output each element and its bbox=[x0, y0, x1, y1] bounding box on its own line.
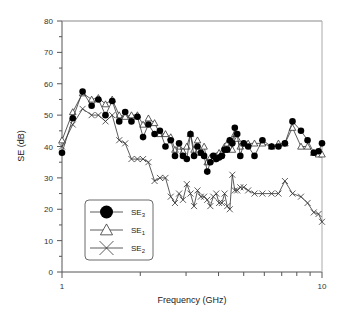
x-axis-label: Frequency (GHz) bbox=[157, 295, 226, 305]
x-cross-icon bbox=[194, 187, 200, 193]
filled-circle-icon bbox=[194, 143, 201, 150]
filled-circle-icon bbox=[88, 102, 95, 109]
filled-circle-icon bbox=[162, 143, 169, 150]
y-tick-label: 50 bbox=[44, 111, 53, 120]
open-triangle-icon bbox=[151, 120, 158, 126]
filled-circle-icon bbox=[102, 112, 109, 119]
filled-circle-icon bbox=[140, 134, 147, 141]
filled-circle-icon bbox=[315, 148, 322, 155]
filled-circle-icon bbox=[298, 128, 305, 135]
filled-circle-icon bbox=[128, 118, 135, 125]
filled-circle-icon bbox=[268, 143, 275, 150]
filled-circle-icon bbox=[319, 140, 326, 147]
filled-circle-icon bbox=[282, 140, 289, 147]
x-cross-icon bbox=[204, 197, 210, 203]
y-tick-label: 70 bbox=[44, 48, 53, 57]
filled-circle-icon bbox=[245, 143, 252, 150]
filled-circle-icon bbox=[275, 143, 282, 150]
x-cross-icon bbox=[282, 178, 288, 184]
filled-circle-icon bbox=[116, 118, 123, 125]
filled-circle-icon bbox=[122, 109, 129, 116]
x-cross-icon bbox=[213, 191, 219, 197]
x-cross-icon bbox=[109, 112, 115, 118]
y-tick-label: 30 bbox=[44, 174, 53, 183]
x-cross-icon bbox=[172, 200, 178, 206]
x-cross-icon bbox=[316, 211, 322, 217]
filled-circle-icon bbox=[187, 131, 194, 138]
x-tick-label: 1 bbox=[60, 282, 65, 291]
filled-circle-icon bbox=[219, 153, 226, 160]
x-cross-icon bbox=[145, 159, 151, 165]
x-cross-icon bbox=[122, 140, 128, 146]
x-cross-icon bbox=[168, 194, 174, 200]
filled-circle-icon bbox=[172, 153, 179, 160]
x-cross-icon bbox=[176, 191, 182, 197]
filled-circle-icon bbox=[59, 149, 66, 156]
x-cross-icon bbox=[116, 137, 122, 143]
open-triangle-icon bbox=[59, 137, 66, 143]
open-triangle-icon bbox=[145, 115, 152, 121]
y-tick-label: 80 bbox=[44, 17, 53, 26]
filled-circle-icon bbox=[224, 146, 231, 153]
filled-circle-icon bbox=[134, 113, 141, 120]
x-tick-label: 10 bbox=[318, 282, 327, 291]
filled-circle-icon bbox=[232, 124, 239, 131]
x-cross-icon bbox=[298, 194, 304, 200]
x-cross-icon bbox=[222, 191, 228, 197]
x-cross-icon bbox=[245, 187, 251, 193]
x-cross-icon bbox=[305, 200, 311, 206]
filled-circle-icon bbox=[207, 159, 214, 166]
filled-circle-icon bbox=[95, 96, 102, 103]
legend: SE3SE1SE2 bbox=[85, 200, 153, 260]
open-triangle-icon bbox=[201, 143, 208, 149]
filled-circle-icon bbox=[237, 153, 244, 160]
filled-circle-icon bbox=[176, 140, 183, 147]
filled-circle-icon bbox=[69, 115, 76, 122]
y-axis-label: SE (dB) bbox=[16, 130, 26, 162]
x-cross-icon bbox=[80, 106, 86, 112]
x-cross-icon bbox=[289, 191, 295, 197]
x-cross-icon bbox=[191, 203, 197, 209]
y-tick-label: 60 bbox=[44, 80, 53, 89]
x-cross-icon bbox=[103, 118, 109, 124]
filled-circle-icon bbox=[304, 137, 311, 144]
series-se3 bbox=[59, 88, 326, 175]
x-cross-icon bbox=[184, 181, 190, 187]
filled-circle-icon bbox=[259, 137, 266, 144]
y-tick-label: 0 bbox=[49, 268, 54, 277]
filled-circle-icon bbox=[157, 128, 164, 135]
filled-circle-icon bbox=[145, 121, 152, 128]
filled-circle-icon bbox=[251, 153, 258, 160]
x-cross-icon bbox=[152, 178, 158, 184]
x-cross-icon bbox=[180, 197, 186, 203]
x-cross-icon bbox=[187, 191, 193, 197]
filled-circle-icon bbox=[201, 153, 208, 160]
x-cross-icon bbox=[207, 203, 213, 209]
y-tick-label: 40 bbox=[44, 143, 53, 152]
filled-circle-icon bbox=[289, 118, 296, 125]
filled-circle-icon bbox=[191, 153, 198, 160]
filled-circle-icon bbox=[234, 131, 241, 138]
filled-circle-icon bbox=[100, 206, 113, 219]
y-tick-label: 20 bbox=[44, 205, 53, 214]
filled-circle-icon bbox=[184, 156, 191, 163]
x-cross-icon bbox=[311, 209, 317, 215]
chart: 01020304050607080110 SE3SE1SE2 Frequency… bbox=[0, 0, 343, 323]
filled-circle-icon bbox=[167, 137, 174, 144]
y-tick-label: 10 bbox=[44, 237, 53, 246]
filled-circle-icon bbox=[204, 168, 211, 175]
filled-circle-icon bbox=[79, 88, 86, 95]
filled-circle-icon bbox=[109, 98, 116, 105]
filled-circle-icon bbox=[229, 140, 236, 147]
open-triangle-icon bbox=[194, 137, 201, 143]
